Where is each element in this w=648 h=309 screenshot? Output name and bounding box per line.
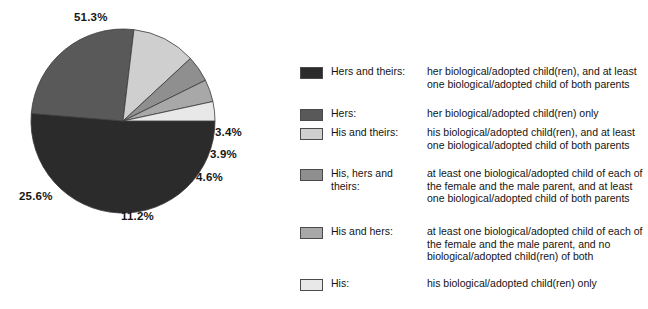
legend-label-his-hers-and-theirs: His, hers and theirs: (331, 167, 423, 192)
legend-description-hers: her biological/adopted child(ren) only (427, 107, 648, 120)
legend-label-his-and-theirs: His and theirs: (331, 126, 423, 139)
legend-description-hers-and-theirs: her biological/adopted child(ren), and a… (427, 65, 648, 90)
pie-label-his-hers-and-theirs: 4.6% (196, 171, 223, 183)
pie-label-his-and-hers: 3.9% (210, 148, 237, 160)
pie-label-hers: 25.6% (19, 190, 53, 202)
pie-chart-figure: 51.3% 3.4% 3.9% 4.6% 11.2% 25.6% Hers an… (0, 0, 648, 309)
pie-slice (31, 113, 215, 213)
legend-label-his-and-hers: His and hers: (331, 225, 423, 238)
legend-swatch-his (300, 279, 323, 291)
pie-label-hers-and-theirs: 51.3% (74, 11, 108, 23)
legend-swatch-hers-and-theirs (300, 67, 323, 79)
legend-swatch-hers (300, 109, 323, 121)
legend-label-his: His: (331, 277, 423, 290)
pie-slices (31, 29, 215, 213)
legend-swatch-his-hers-and-theirs (300, 169, 323, 181)
legend-description-his: his biological/adopted child(ren) only (427, 277, 648, 290)
legend-description-his-hers-and-theirs: at least one biological/adopted child of… (427, 167, 648, 205)
pie-label-his-and-theirs: 11.2% (121, 210, 154, 222)
legend-swatch-his-and-hers (300, 227, 323, 239)
pie-chart-area: 51.3% 3.4% 3.9% 4.6% 11.2% 25.6% (0, 0, 290, 260)
legend-description-his-and-theirs: his biological/adopted child(ren), and a… (427, 126, 648, 151)
legend-swatch-his-and-theirs (300, 128, 323, 140)
pie-slice (31, 29, 134, 121)
legend-label-hers: Hers: (331, 107, 423, 120)
legend-description-his-and-hers: at least one biological/adopted child of… (427, 225, 648, 263)
pie-label-his: 3.4% (215, 126, 242, 138)
legend-label-hers-and-theirs: Hers and theirs: (331, 65, 423, 78)
